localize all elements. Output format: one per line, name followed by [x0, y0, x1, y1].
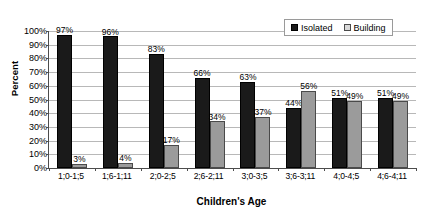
bar-group: 96%4% [95, 31, 141, 168]
bar-isolated: 96% [103, 36, 118, 168]
bar-value-label: 97% [56, 26, 73, 35]
bar-value-label: 63% [239, 73, 256, 82]
bar-isolated: 63% [240, 82, 255, 168]
bar-building: 17% [164, 145, 179, 168]
bar-group: 97%3% [49, 31, 95, 168]
bar-isolated: 44% [286, 108, 301, 168]
bar-value-label: 17% [163, 136, 180, 145]
y-axis-tick-label: 40% [14, 108, 47, 118]
x-axis-tick-label: 3;6-3;11 [277, 171, 323, 181]
y-axis-tick-label: 30% [14, 122, 47, 132]
y-axis-tick-label: 70% [14, 67, 47, 77]
bar-building: 56% [301, 91, 316, 168]
bar-group: 83%17% [141, 31, 187, 168]
bar-value-label: 34% [209, 113, 226, 122]
bar-isolated: 51% [332, 98, 347, 168]
x-axis-tick-label: 2;6-2;11 [186, 171, 232, 181]
bar-building: 37% [255, 117, 270, 168]
bar-chart: Percent 100%90%80%70%60%50%40%30%20%10%0… [0, 0, 423, 222]
bar-value-label: 66% [194, 69, 211, 78]
legend-label: Building [354, 23, 386, 33]
chart-legend: IsolatedBuilding [284, 19, 393, 36]
bar-value-label: 3% [73, 155, 85, 164]
bar-building: 3% [72, 164, 87, 168]
x-axis-tick-label: 4;6-4;11 [369, 171, 415, 181]
x-axis-title: Children's Age [48, 196, 415, 207]
bar-value-label: 96% [102, 28, 119, 37]
bar-isolated: 83% [149, 54, 164, 168]
bar-value-label: 49% [392, 92, 409, 101]
bar-groups: 97%3%96%4%83%17%66%34%63%37%44%56%51%49%… [49, 31, 416, 168]
legend-item: Isolated [291, 23, 333, 33]
plot-area: 97%3%96%4%83%17%66%34%63%37%44%56%51%49%… [48, 31, 416, 169]
x-axis-tick-mark [416, 168, 417, 171]
y-axis-tick-label: 60% [14, 81, 47, 91]
bar-isolated: 66% [195, 78, 210, 168]
y-axis-tick-label: 90% [14, 40, 47, 50]
bar-isolated: 51% [378, 98, 393, 168]
y-axis-tick-label: 50% [14, 95, 47, 105]
bar-building: 49% [347, 101, 362, 168]
x-axis-tick-label: 4;0-4;5 [323, 171, 369, 181]
bar-value-label: 49% [346, 92, 363, 101]
bar-building: 49% [393, 101, 408, 168]
legend-item: Building [344, 23, 386, 33]
legend-swatch-isolated [291, 24, 298, 31]
bar-building: 34% [210, 121, 225, 168]
x-axis-tick-label: 1;0-1;5 [48, 171, 94, 181]
y-axis-tick-labels: 100%90%80%70%60%50%40%30%20%10%0% [14, 26, 47, 168]
bar-value-label: 56% [300, 82, 317, 91]
legend-label: Isolated [301, 23, 333, 33]
y-axis-tick-label: 20% [14, 136, 47, 146]
y-axis-tick-label: 100% [14, 26, 47, 36]
x-axis-tick-label: 3;0-3;5 [232, 171, 278, 181]
bar-building: 4% [118, 163, 133, 168]
bar-group: 66%34% [187, 31, 233, 168]
x-axis-tick-label: 2;0-2;5 [140, 171, 186, 181]
x-axis-tick-label: 1;6-1;11 [94, 171, 140, 181]
y-axis-tick-label: 80% [14, 53, 47, 63]
bar-group: 63%37% [233, 31, 279, 168]
x-axis-tick-labels: 1;0-1;51;6-1;112;0-2;52;6-2;113;0-3;53;6… [48, 171, 415, 181]
legend-swatch-building [344, 24, 351, 31]
bar-group: 51%49% [324, 31, 370, 168]
y-axis-tick-label: 0% [14, 163, 47, 173]
bar-value-label: 44% [285, 99, 302, 108]
bar-group: 51%49% [370, 31, 416, 168]
bar-group: 44%56% [278, 31, 324, 168]
bar-isolated: 97% [57, 35, 72, 168]
bar-value-label: 4% [119, 154, 131, 163]
bar-value-label: 83% [148, 45, 165, 54]
bar-value-label: 37% [254, 108, 271, 117]
y-axis-tick-label: 10% [14, 149, 47, 159]
